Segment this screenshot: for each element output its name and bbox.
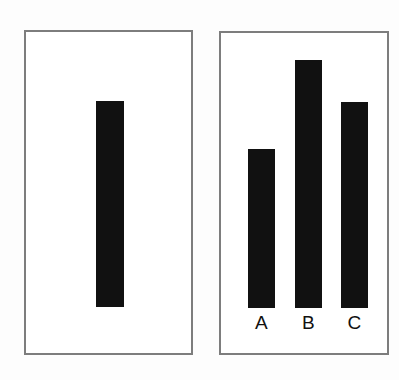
bar-b [295,60,322,308]
reference-bar [96,101,124,307]
bar-a [248,149,275,308]
comparison-plot-area: A B C [221,33,387,353]
bar-label-c: C [341,313,368,332]
figure-root: A B C [0,0,399,380]
bar-label-b: B [295,313,322,332]
reference-plot-area [26,32,191,353]
reference-panel [24,30,193,355]
comparison-panel: A B C [219,31,389,355]
bar-c [341,102,368,308]
bar-label-a: A [248,313,275,332]
